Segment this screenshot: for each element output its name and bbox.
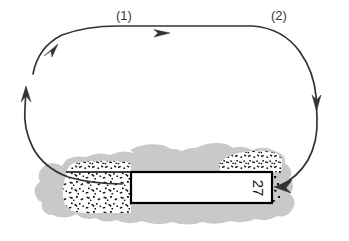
arrow-top-rightward-head — [154, 30, 170, 38]
step-label-one: (1) — [116, 8, 132, 23]
step-label-two: (2) — [271, 8, 287, 23]
figure-canvas: (1) (2) 27 — [0, 0, 349, 241]
block-reference-label: 27 — [246, 176, 270, 200]
diagram-svg — [0, 0, 349, 241]
